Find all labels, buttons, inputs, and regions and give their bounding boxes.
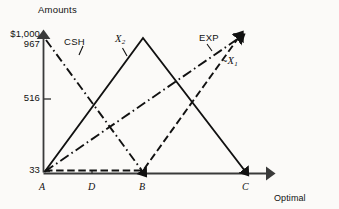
series-label-x2: X2 [115,33,126,46]
x-tick-label-C: C [242,182,249,193]
x-tick-label-A: A [39,182,45,193]
x-axis-title: Optimal strategies with increasing risk [274,166,339,209]
y-tick-label-516: 516 [0,93,40,103]
leader-exp [207,44,212,51]
series-label-x1: ~X1 [222,55,238,68]
series-line-exp [45,38,239,172]
series-label-exp: EXP [199,33,219,43]
chart-figure: Amounts $1,000 967 516 33 A D B C CSH X2… [0,0,339,209]
leader-x2 [123,48,128,56]
x-axis-title-line-1: Optimal [274,192,339,205]
series-label-x2-subscript: 2 [122,38,126,46]
x-tick-label-D: D [88,182,95,193]
y-tick-label-33: 33 [0,165,40,175]
series-line-x2 [45,38,246,172]
series-label-csh: CSH [64,37,85,47]
x-tick-label-B: B [139,182,145,193]
leader-csh [79,46,83,55]
y-axis-title: Amounts [38,5,77,15]
y-tick-label-967: 967 [0,39,40,49]
series-line-csh [46,40,143,172]
series-label-x1-subscript: 1 [234,60,238,68]
series-label-x2-text: X [115,33,122,44]
